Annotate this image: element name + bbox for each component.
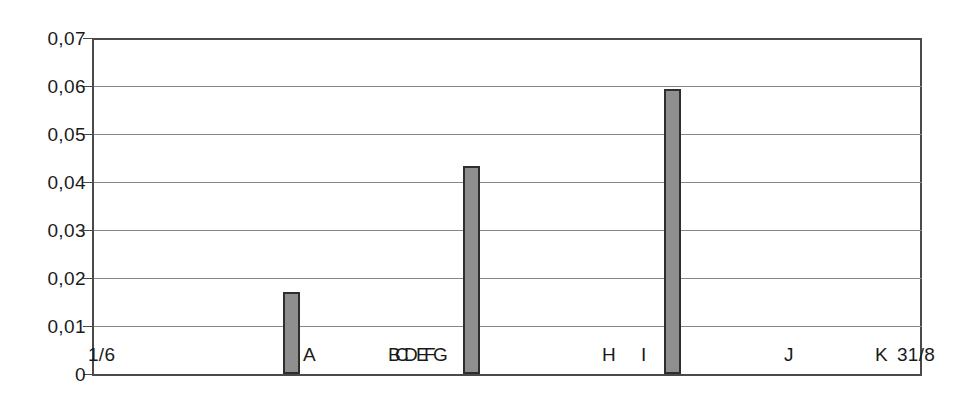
xlabel-g: G [433,345,448,364]
gridline-0_06 [92,86,922,87]
xlabel-j: J [784,345,794,364]
xaxis-end-marker: 31/8 [897,345,935,364]
ytick-label-0_01: 0,01 [8,317,86,336]
gridline-0_01 [92,326,922,327]
ytick-label-0_03: 0,03 [8,221,86,240]
gridline-0_02 [92,278,922,279]
xlabel-cluster-bcdefg: B C D E F G [388,345,458,367]
gridline-0_05 [92,134,922,135]
xlabel-h: H [602,345,616,364]
xlabel-k: K [875,345,888,364]
xaxis-start-marker: 1/6 [88,345,115,364]
ytick-label-0_06: 0,06 [8,77,86,96]
gridline-0_04 [92,182,922,183]
bar-chart: 0,07 0,06 0,05 0,04 0,03 0,02 0,01 0 1/6… [0,0,968,403]
ytick-label-0_07: 0,07 [8,29,86,48]
ytick-label-0_02: 0,02 [8,269,86,288]
xlabel-a: A [303,345,316,364]
bar-3 [664,89,681,374]
gridline-0_03 [92,230,922,231]
ytick-label-0: 0 [8,365,86,384]
bar-2 [463,166,480,374]
xlabel-i: I [641,345,647,364]
ytick-label-0_04: 0,04 [8,173,86,192]
ytick-label-0_05: 0,05 [8,125,86,144]
bar-1 [283,292,300,374]
